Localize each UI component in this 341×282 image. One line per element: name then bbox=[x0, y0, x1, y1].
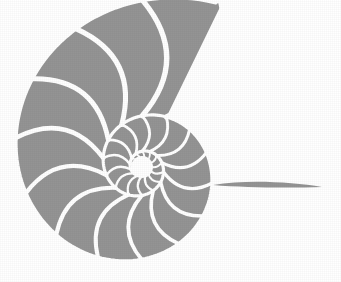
shell-illustration-canvas: Nautilus Shell Cross-Section Gray silhou… bbox=[0, 0, 341, 282]
nautilus-shell-graphic: Nautilus Shell Cross-Section Gray silhou… bbox=[0, 0, 341, 282]
umbilicus-center bbox=[131, 156, 153, 178]
